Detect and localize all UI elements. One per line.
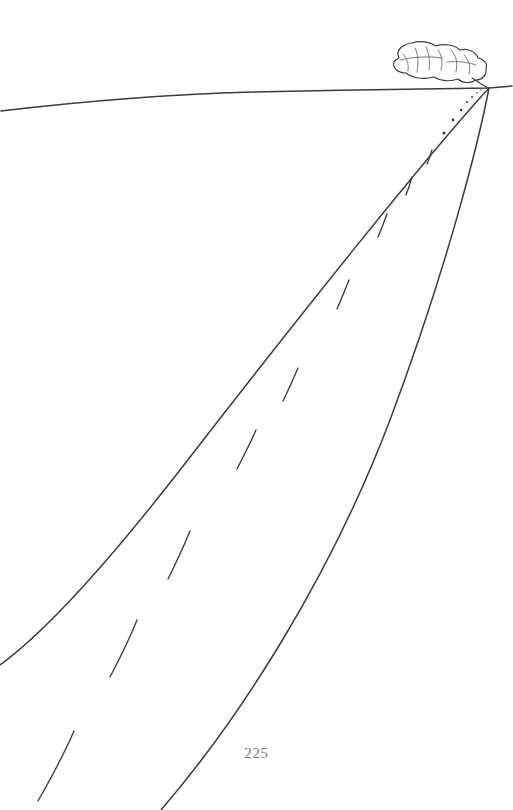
center-line-dot <box>443 132 446 135</box>
center-line-dash <box>406 177 412 195</box>
horizon-line <box>1 86 512 111</box>
center-line-dash <box>168 531 190 579</box>
center-line-dot <box>466 101 468 103</box>
center-line-dash <box>337 280 349 309</box>
smoke-plume-detail-stroke <box>451 50 457 72</box>
center-line-dot <box>460 109 463 112</box>
center-line-dash <box>427 150 432 164</box>
center-line-dash <box>283 368 298 401</box>
smoke-plume-detail-stroke <box>464 55 470 74</box>
center-line-dash <box>38 731 74 801</box>
road-center-line-dots <box>443 89 482 134</box>
road-left-edge <box>0 88 489 665</box>
center-line-dash <box>110 620 137 677</box>
road-right-edge <box>161 88 489 810</box>
page-number: 225 <box>0 745 513 762</box>
road-perspective-illustration <box>0 0 513 810</box>
smoke-plume-detail-stroke <box>403 54 408 71</box>
road-center-line-dashes <box>38 150 432 801</box>
smoke-plume-detail-stroke <box>447 62 476 65</box>
smoke-plume-detail-stroke <box>426 47 429 70</box>
smoke-plume-detail-stroke <box>438 50 442 70</box>
center-line-dot <box>471 96 473 98</box>
smoke-plume-detail-strokes <box>400 47 476 74</box>
smoke-plume-detail-stroke <box>415 48 418 72</box>
center-line-dot <box>452 119 455 122</box>
smoke-plume-detail-stroke <box>400 57 442 60</box>
center-line-dot <box>480 89 481 90</box>
center-line-dot <box>476 92 478 94</box>
book-page: 225 <box>0 0 513 810</box>
center-line-dash <box>237 430 256 469</box>
